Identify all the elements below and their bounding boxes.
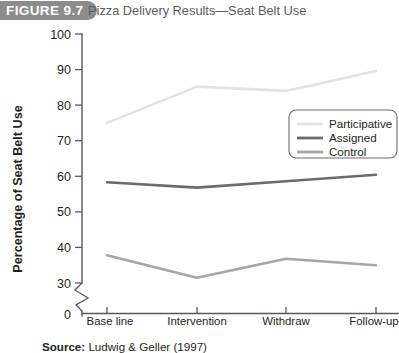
y-axis-title: Percentage of Seat Belt Use bbox=[11, 105, 25, 272]
axis-break-icon bbox=[75, 283, 88, 311]
legend-label-participative: Participative bbox=[329, 117, 392, 130]
y-tick-label: 30 bbox=[57, 277, 71, 291]
chart-legend: Participative Assigned Control bbox=[289, 110, 397, 158]
figure-title: Pizza Delivery Results—Seat Belt Use bbox=[88, 2, 306, 19]
y-tick-label: 70 bbox=[57, 134, 71, 148]
x-tick-label-withdraw: Withdraw bbox=[262, 315, 310, 327]
y-tick-label: 90 bbox=[57, 63, 71, 77]
figure-header: FIGURE 9.7 Pizza Delivery Results—Seat B… bbox=[0, 0, 399, 24]
source-text: Ludwig & Geller (1997) bbox=[85, 340, 207, 353]
series-line-control bbox=[107, 255, 376, 277]
y-tick-label: 40 bbox=[57, 241, 71, 255]
y-tick-label: 50 bbox=[57, 205, 71, 219]
y-tick-label: 100 bbox=[50, 28, 71, 42]
series-line-assigned bbox=[107, 175, 376, 188]
x-tick-label-intervention: Intervention bbox=[167, 315, 227, 327]
y-axis-ticks bbox=[75, 34, 82, 283]
x-tick-label-baseline: Base line bbox=[87, 315, 134, 327]
y-tick-label: 60 bbox=[57, 170, 71, 184]
figure-number-badge: FIGURE 9.7 bbox=[0, 1, 97, 20]
x-axis-tick-labels: Base line Intervention Withdraw Follow-u… bbox=[87, 315, 399, 327]
legend-label-assigned: Assigned bbox=[329, 131, 377, 144]
y-axis-zero-label: 0 bbox=[64, 308, 71, 322]
x-tick-label-followup: Follow-up bbox=[349, 315, 398, 327]
y-tick-label: 80 bbox=[57, 99, 71, 113]
legend-label-control: Control bbox=[329, 145, 366, 158]
y-axis-tick-labels: 100 90 80 70 60 50 40 30 0 bbox=[50, 28, 71, 322]
source-label: Source: bbox=[42, 340, 85, 353]
source-note: Source: Ludwig & Geller (1997) bbox=[42, 340, 207, 353]
x-axis-ticks bbox=[107, 307, 376, 314]
line-chart: Percentage of Seat Belt Use 100 90 80 70… bbox=[0, 24, 399, 329]
